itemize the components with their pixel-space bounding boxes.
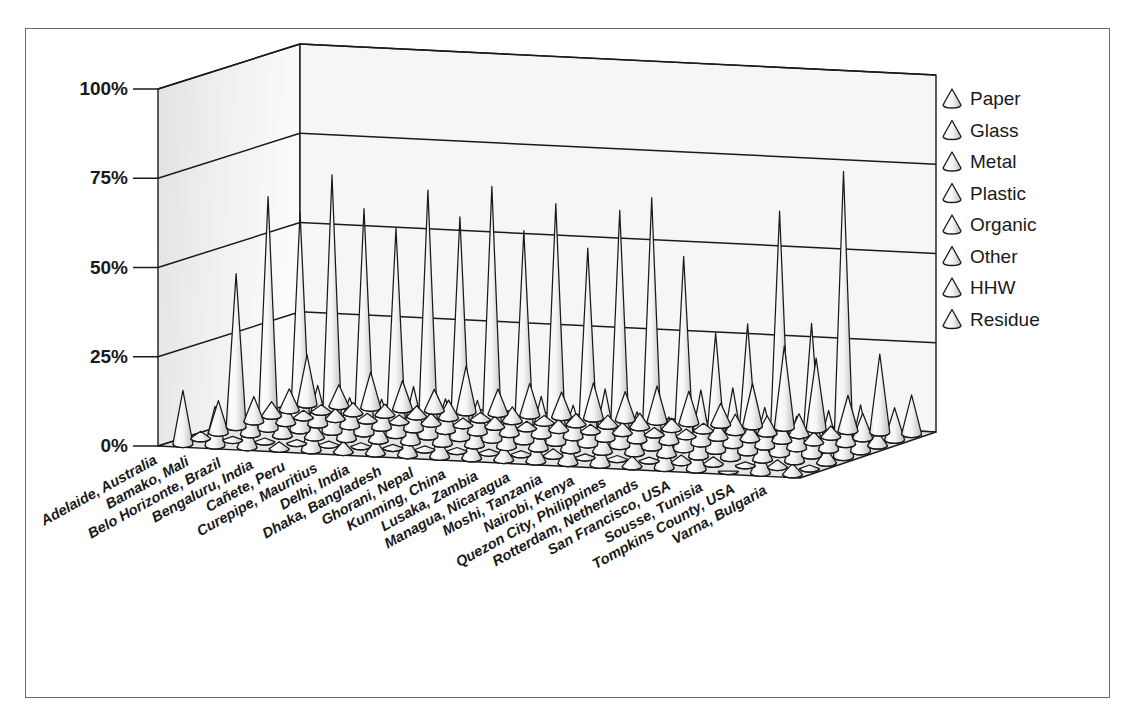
legend-cone-icon xyxy=(943,278,961,297)
legend-item[interactable]: Metal xyxy=(943,151,1016,172)
legend-label: Glass xyxy=(970,120,1019,141)
legend-label: Organic xyxy=(970,214,1037,235)
chart-figure: 0%25%50%75%100%Adelaide, AustraliaBamako… xyxy=(0,0,1136,726)
y-tick-label: 75% xyxy=(90,167,128,188)
y-tick-label: 100% xyxy=(79,78,128,99)
legend-cone-icon xyxy=(943,121,961,140)
legend-item[interactable]: Glass xyxy=(943,120,1019,141)
legend-cone-icon xyxy=(943,310,961,329)
legend-label: HHW xyxy=(970,277,1015,298)
y-tick-label: 25% xyxy=(90,346,128,367)
legend-label: Residue xyxy=(970,309,1040,330)
legend-item[interactable]: Other xyxy=(943,246,1018,267)
legend-label: Paper xyxy=(970,88,1021,109)
legend-item[interactable]: Residue xyxy=(943,309,1040,330)
legend-label: Plastic xyxy=(970,183,1026,204)
legend-cone-icon xyxy=(943,247,961,266)
legend-cone-icon xyxy=(943,215,961,234)
legend-item[interactable]: Plastic xyxy=(943,183,1026,204)
legend-cone-icon xyxy=(943,184,961,203)
legend-label: Other xyxy=(970,246,1018,267)
y-tick-label: 0% xyxy=(101,435,129,456)
legend-cone-icon xyxy=(943,152,961,171)
cone xyxy=(718,471,738,475)
legend-item[interactable]: Organic xyxy=(943,214,1037,235)
legend-item[interactable]: HHW xyxy=(943,277,1015,298)
legend-label: Metal xyxy=(970,151,1016,172)
chart-canvas: 0%25%50%75%100%Adelaide, AustraliaBamako… xyxy=(0,0,1136,726)
legend-cone-icon xyxy=(943,89,961,108)
y-tick-label: 50% xyxy=(90,257,128,278)
legend: PaperGlassMetalPlasticOrganicOtherHHWRes… xyxy=(943,88,1040,330)
legend-item[interactable]: Paper xyxy=(943,88,1021,109)
